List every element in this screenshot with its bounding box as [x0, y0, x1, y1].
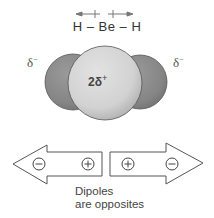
left-charge-sign: − [33, 55, 38, 64]
caption: Dipoles are opposites [75, 185, 144, 211]
left-partial-charge: δ− [27, 55, 38, 71]
center-charge-sign: + [102, 73, 107, 83]
right-partial-charge: δ− [173, 55, 184, 71]
molecule-formula: H – Be – H [0, 19, 214, 34]
caption-line-1: Dipoles [75, 185, 144, 198]
center-partial-charge: 2δ+ [88, 73, 107, 89]
right-charge-sign: − [179, 55, 184, 64]
bond-dipole-left-arrow-icon [76, 10, 100, 18]
bond-dipole-right-arrow-icon [108, 10, 133, 18]
right-dipole-arrow-icon [110, 143, 203, 184]
center-charge-delta: 2δ [88, 75, 102, 89]
caption-line-2: are opposites [75, 198, 144, 211]
